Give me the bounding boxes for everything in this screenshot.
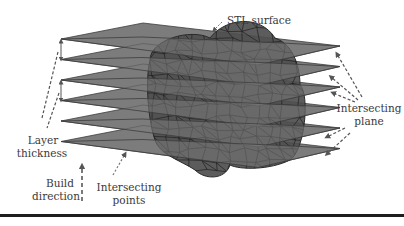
stl-slicing-diagram: STL surface Layer thickness Intersecting…	[0, 0, 404, 226]
mesh-edge	[297, 161, 309, 164]
mesh-edge	[279, 173, 295, 174]
intersecting-points-label-line2: points	[113, 194, 146, 206]
layer-thickness-indicator	[42, 41, 61, 128]
layer-thickness-label-line1: Layer	[28, 134, 59, 146]
mesh-edge	[285, 30, 296, 37]
mesh-edge	[285, 27, 293, 30]
mesh-edge	[309, 163, 311, 169]
mesh-edge	[163, 159, 169, 173]
mesh-edge	[176, 20, 179, 27]
mesh-edge	[305, 53, 307, 64]
plane-leader-1	[337, 54, 362, 97]
mesh-edge	[203, 15, 219, 19]
intersecting-plane-label-line1: Intersecting	[337, 102, 402, 114]
mesh-edge	[295, 161, 296, 174]
intersecting-plane-label-line2: plane	[354, 115, 383, 127]
mesh-edge	[137, 170, 152, 172]
mesh-edge	[150, 159, 163, 160]
mesh-edge	[163, 159, 177, 174]
mesh-edge	[150, 16, 166, 18]
figure-bottom-rule	[0, 214, 404, 217]
intersecting-points-label-line1: Intersecting	[97, 181, 162, 193]
mesh-edge	[193, 17, 204, 19]
mesh-edge	[308, 27, 309, 40]
build-direction-label-line2: direction	[32, 190, 80, 202]
build-direction-label-line1: Build	[46, 177, 74, 189]
mesh-edge	[227, 171, 246, 172]
intersecting-points-leader	[113, 154, 125, 175]
mesh-edge	[140, 16, 150, 18]
mesh-edge	[150, 160, 153, 170]
plane-leader-3	[333, 93, 355, 102]
mesh-edge	[177, 172, 189, 174]
mesh-edge	[293, 27, 296, 37]
mesh-edge	[202, 20, 203, 31]
mesh-edge	[271, 28, 285, 30]
layer-thickness-leader-2	[47, 93, 59, 128]
mesh-edge	[140, 160, 149, 164]
mesh-edge	[293, 27, 308, 39]
mesh-edge	[152, 170, 168, 173]
mesh-edge	[217, 15, 219, 28]
layer-thickness-label-line2: thickness	[17, 147, 67, 159]
mesh-edge	[140, 164, 152, 171]
mesh-edge	[296, 37, 307, 39]
layer-thickness-leader-1	[42, 52, 58, 118]
mesh-edge	[295, 170, 311, 174]
mesh-edge	[309, 16, 313, 26]
plane-leader-5	[327, 133, 350, 154]
mesh-edge	[293, 27, 309, 28]
mesh-edge	[246, 171, 253, 172]
mesh-edge	[166, 18, 176, 20]
stl-surface-label: STL surface	[227, 14, 291, 26]
mesh-edge	[270, 172, 280, 173]
mesh-edge	[293, 16, 313, 18]
mesh-edge	[176, 17, 193, 20]
mesh-edge	[137, 164, 140, 172]
